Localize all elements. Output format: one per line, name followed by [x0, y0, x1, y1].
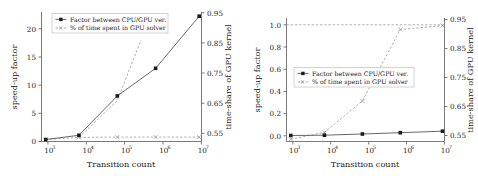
right-xaxis-label: Transition count	[331, 159, 400, 169]
right-xtick-exp-4: 7	[449, 144, 452, 150]
left-y2tick-075: 0.75	[207, 69, 223, 78]
right-xtick-exp-1: 4	[335, 144, 338, 150]
left-y2tick-095: 0.95	[207, 9, 223, 18]
right-y2tick-075: 0.75	[450, 73, 466, 82]
right-chart-svg: 0.0 0.2 0.4 0.6 0.8 1.0 0.55 0.65 0.75 0…	[239, 0, 478, 176]
right-plot-area: 0.0 0.2 0.4 0.6 0.8 1.0 0.55 0.65 0.75 0…	[252, 15, 475, 169]
right-legend-entry-1: % of time spent in GPU solver	[298, 78, 409, 86]
left-ytick-0: 0	[31, 137, 36, 146]
right-ytick-02: 0.2	[270, 109, 281, 118]
left-series-timeshare-line	[46, 137, 200, 140]
left-xtick-labels: 10 3 10 4 10 5 10 6 10 7	[44, 144, 209, 154]
right-legend-label-1: % of time spent in GPU solver	[312, 78, 409, 86]
left-y2tick-085: 0.85	[207, 39, 223, 48]
left-xtick-exp-1: 4	[91, 144, 94, 150]
left-legend-entry-0: Factor between CPU/GPU ver.	[56, 16, 167, 23]
right-series-speedup-markers	[289, 129, 444, 137]
right-xtick-exp-0: 3	[297, 144, 300, 150]
chart-panel-left: 0 5 10 15 20 0.55 0.65 0.75 0.85 0.95	[0, 0, 239, 176]
left-ytick-20: 20	[27, 25, 37, 34]
left-xtick-exp-2: 5	[129, 144, 132, 150]
left-plot-area: 0 5 10 15 20 0.55 0.65 0.75 0.85 0.95	[9, 9, 233, 170]
left-ytick-10: 10	[27, 81, 37, 90]
right-y2tick-055: 0.55	[450, 131, 466, 140]
right-ytick-04: 0.4	[270, 87, 282, 96]
figure-two-panel-charts: 0 5 10 15 20 0.55 0.65 0.75 0.85 0.95	[0, 0, 478, 176]
right-legend-entry-0: Factor between CPU/GPU ver.	[298, 70, 409, 77]
left-series-speedup-line	[46, 16, 200, 139]
right-ytick-10: 1.0	[270, 21, 282, 30]
left-xtick-exp-0: 3	[52, 144, 55, 150]
right-panel-secondary-y-ticks	[445, 20, 448, 136]
right-y2tick-065: 0.65	[450, 102, 466, 111]
right-xtick-exp-3: 6	[411, 144, 414, 150]
right-legend-label-0: Factor between CPU/GPU ver.	[312, 70, 408, 77]
right-y2tick-085: 0.85	[450, 44, 466, 53]
right-yaxis-label: speed-up factor	[252, 47, 262, 112]
right-y2tick-095: 0.95	[450, 15, 466, 24]
left-xaxis-label: Transition count	[87, 159, 156, 169]
left-legend: Factor between CPU/GPU ver. % of time sp…	[52, 14, 168, 34]
left-secondary-yaxis-label: time-share of GPU kernel	[223, 24, 233, 130]
left-xtick-exp-3: 6	[167, 144, 170, 150]
right-ytick-00: 0.0	[270, 132, 282, 141]
right-y-axis-ticks	[284, 25, 287, 136]
right-xtick-labels: 10 3 10 4 10 5 10 6 10 7	[289, 144, 452, 154]
left-xtick-exp-4: 7	[206, 144, 209, 150]
left-series-timeshare-rise	[79, 40, 141, 137]
left-yaxis-label: speed-up factor	[9, 44, 19, 109]
right-secondary-yaxis-label: time-share of GPU kernel	[465, 27, 475, 133]
left-ytick-15: 15	[27, 53, 37, 62]
right-ytick-06: 0.6	[270, 65, 282, 74]
right-xtick-exp-2: 5	[373, 144, 376, 150]
left-legend-label-0: Factor between CPU/GPU ver.	[70, 16, 166, 23]
left-y2tick-065: 0.65	[207, 99, 223, 108]
left-chart-svg: 0 5 10 15 20 0.55 0.65 0.75 0.85 0.95	[0, 0, 239, 176]
right-legend: Factor between CPU/GPU ver. % of time sp…	[294, 68, 414, 88]
left-y2tick-055: 0.55	[207, 129, 223, 138]
left-ytick-5: 5	[31, 109, 36, 118]
right-ytick-08: 0.8	[270, 43, 282, 52]
left-series-speedup-markers	[44, 14, 201, 141]
left-legend-label-1: % of time spent in GPU solver	[70, 24, 167, 32]
chart-panel-right: 0.0 0.2 0.4 0.6 0.8 1.0 0.55 0.65 0.75 0…	[239, 0, 478, 176]
left-legend-entry-1: % of time spent in GPU solver	[56, 24, 167, 32]
